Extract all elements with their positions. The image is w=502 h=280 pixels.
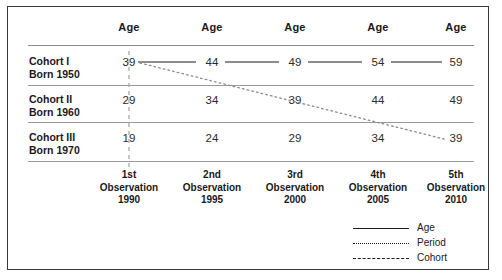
obs-5-year: 2010 — [411, 194, 501, 207]
legend-label-cohort: Cohort — [417, 252, 447, 263]
column-header-age-5: Age — [417, 21, 495, 33]
cohort-2-name: Cohort II — [29, 93, 72, 105]
rule-under-cohort3 — [28, 161, 474, 162]
rule-under-header — [28, 45, 474, 46]
footer-observation-1: 1st Observation 1990 — [84, 169, 174, 207]
diagram-frame: Age Age Age Age Age Cohort I Born 1950 3… — [7, 6, 489, 270]
obs-1-year: 1990 — [84, 194, 174, 207]
cohort-3-name: Cohort III — [29, 131, 75, 143]
rule-between-cohort2-cohort3 — [28, 122, 474, 123]
cell-cohort1-obs5: 59 — [417, 56, 495, 68]
footer-observation-5: 5th Observation 2010 — [411, 169, 501, 207]
cell-cohort1-obs3: 49 — [256, 56, 334, 68]
cohort-1-name: Cohort I — [29, 55, 69, 67]
obs-1-word: Observation — [84, 182, 174, 195]
cell-cohort2-obs5: 49 — [417, 94, 495, 106]
legend-item-age: Age — [353, 222, 473, 235]
cell-cohort2-obs4: 44 — [339, 94, 417, 106]
cohort-1-born: Born 1950 — [29, 68, 125, 81]
legend-label-age: Age — [417, 222, 435, 233]
footer-observation-4: 4th Observation 2005 — [333, 169, 423, 207]
cohort-2-born: Born 1960 — [29, 106, 125, 119]
legend-item-cohort: Cohort — [353, 252, 473, 265]
cell-cohort1-obs1: 39 — [90, 56, 168, 68]
legend-swatch-dotted-line — [353, 243, 409, 244]
obs-1-ordinal: 1st — [84, 169, 174, 182]
cohort-3-born: Born 1970 — [29, 144, 125, 157]
column-header-age-1: Age — [90, 21, 168, 33]
cell-cohort3-obs4: 34 — [339, 132, 417, 144]
obs-3-ordinal: 3rd — [250, 169, 340, 182]
footer-observation-2: 2nd Observation 1995 — [167, 169, 257, 207]
cell-cohort1-obs4: 54 — [339, 56, 417, 68]
cell-cohort3-obs1: 19 — [90, 132, 168, 144]
cell-cohort2-obs1: 29 — [90, 94, 168, 106]
footer-observation-3: 3rd Observation 2000 — [250, 169, 340, 207]
legend-swatch-solid-line — [353, 228, 409, 229]
obs-5-ordinal: 5th — [411, 169, 501, 182]
obs-5-word: Observation — [411, 182, 501, 195]
cell-cohort3-obs5: 39 — [417, 132, 495, 144]
column-header-row: Age Age Age Age Age — [8, 21, 488, 43]
column-header-age-3: Age — [256, 21, 334, 33]
legend-item-period: Period — [353, 237, 473, 250]
cell-cohort1-obs2: 44 — [173, 56, 251, 68]
obs-2-ordinal: 2nd — [167, 169, 257, 182]
obs-4-year: 2005 — [333, 194, 423, 207]
rule-between-cohort1-cohort2 — [28, 85, 474, 86]
column-header-age-4: Age — [339, 21, 417, 33]
obs-2-word: Observation — [167, 182, 257, 195]
obs-4-word: Observation — [333, 182, 423, 195]
cell-cohort3-obs3: 29 — [256, 132, 334, 144]
cell-cohort2-obs3: 39 — [256, 94, 334, 106]
legend-swatch-dashed-line — [353, 258, 409, 259]
obs-3-word: Observation — [250, 182, 340, 195]
obs-2-year: 1995 — [167, 194, 257, 207]
obs-3-year: 2000 — [250, 194, 340, 207]
legend-label-period: Period — [417, 237, 446, 248]
cell-cohort3-obs2: 24 — [173, 132, 251, 144]
legend: Age Period Cohort — [353, 222, 473, 267]
obs-4-ordinal: 4th — [333, 169, 423, 182]
cell-cohort2-obs2: 34 — [173, 94, 251, 106]
column-header-age-2: Age — [173, 21, 251, 33]
